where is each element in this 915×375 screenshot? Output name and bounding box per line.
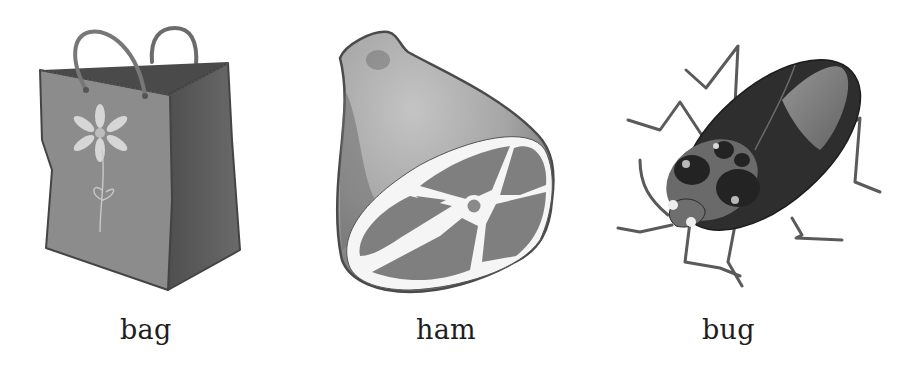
word-label-bag: bag: [120, 316, 172, 343]
bag-illustration: [40, 28, 240, 290]
vocabulary-picture-strip: bag ham bug: [0, 0, 915, 375]
bag-back-handle: [152, 28, 197, 66]
bug-eye: [668, 200, 678, 210]
word-label-bug: bug: [702, 316, 755, 343]
bag-front-face: [40, 70, 172, 290]
bug-illustration: [618, 28, 891, 286]
ham-illustration: [337, 32, 553, 292]
bag-side-face: [168, 63, 240, 290]
word-label-ham: ham: [416, 316, 476, 343]
